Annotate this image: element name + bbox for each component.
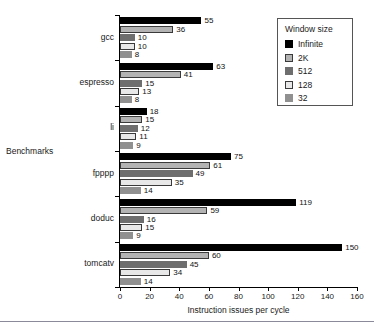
y-axis-category-label: gcc — [48, 32, 114, 42]
bar-value-label: 8 — [135, 96, 139, 104]
bar — [120, 51, 132, 58]
bar — [120, 269, 170, 276]
bar — [120, 207, 207, 214]
x-axis-tick — [357, 287, 358, 291]
legend: Window size Infinite2K51212832 — [277, 18, 353, 106]
bar — [120, 170, 193, 177]
bar-value-label: 61 — [213, 162, 222, 170]
legend-item-label: Infinite — [298, 39, 323, 49]
x-axis-tick — [239, 287, 240, 291]
legend-item-label: 128 — [298, 80, 312, 90]
bar-value-label: 45 — [190, 261, 199, 269]
bar-value-label: 9 — [136, 142, 140, 150]
x-axis-tick-label: 160 — [342, 292, 372, 302]
y-axis-label: Benchmarks — [6, 146, 76, 156]
bar — [120, 71, 181, 78]
bar-value-label: 150 — [345, 244, 358, 252]
bar-value-label: 13 — [142, 88, 151, 96]
bar — [120, 34, 135, 41]
bar — [120, 252, 209, 259]
bar — [120, 187, 141, 194]
y-axis-tick — [115, 196, 119, 197]
bar-value-label: 59 — [210, 207, 219, 215]
y-axis-tick — [115, 151, 119, 152]
bar-value-label: 63 — [216, 63, 225, 71]
y-axis-tick — [115, 287, 119, 288]
x-axis-tick — [150, 287, 151, 291]
bar-value-label: 10 — [138, 34, 147, 42]
x-axis-tick-label: 20 — [135, 292, 165, 302]
bar — [120, 26, 173, 33]
x-axis-tick — [298, 287, 299, 291]
bar-value-label: 35 — [175, 179, 184, 187]
bar-value-label: 41 — [184, 71, 193, 79]
y-axis-tick — [115, 106, 119, 107]
y-axis-category-label: espresso — [48, 77, 114, 87]
bar — [120, 125, 138, 132]
y-axis-category-label: doduc — [48, 213, 114, 223]
legend-swatch-icon — [285, 40, 293, 48]
bar — [120, 179, 172, 186]
x-axis-tick-label: 40 — [164, 292, 194, 302]
bar — [120, 278, 141, 285]
bar — [120, 199, 296, 206]
bottom-divider — [0, 321, 374, 322]
bar — [120, 142, 133, 149]
x-axis-label: Instruction issues per cycle — [119, 305, 358, 315]
bar — [120, 63, 213, 70]
bar-value-label: 36 — [176, 26, 185, 34]
bar-value-label: 75 — [234, 153, 243, 161]
legend-swatch-icon — [285, 54, 293, 62]
x-axis-tick-label: 80 — [224, 292, 254, 302]
legend-swatch-icon — [285, 94, 293, 102]
y-axis-category-label: li — [48, 122, 114, 132]
bar-value-label: 14 — [144, 278, 153, 286]
y-axis-tick — [115, 242, 119, 243]
bar-value-label: 9 — [136, 232, 140, 240]
bar — [120, 216, 144, 223]
chart-figure: 020406080100120140160gcc553610108espress… — [0, 0, 374, 331]
bar-value-label: 55 — [204, 17, 213, 25]
bar-value-label: 60 — [212, 252, 221, 260]
y-axis-tick — [115, 60, 119, 61]
x-axis-tick-label: 120 — [283, 292, 313, 302]
legend-item-label: 2K — [298, 53, 308, 63]
x-axis-tick — [120, 287, 121, 291]
bar-value-label: 119 — [299, 199, 312, 207]
x-axis-tick-label: 140 — [312, 292, 342, 302]
x-axis-tick — [268, 287, 269, 291]
bar — [120, 162, 210, 169]
y-axis-category-label: tomcatv — [48, 258, 114, 268]
bar — [120, 96, 132, 103]
bar-value-label: 14 — [144, 187, 153, 195]
x-axis-tick — [209, 287, 210, 291]
y-axis-tick — [115, 15, 119, 16]
x-axis-tick — [179, 287, 180, 291]
bar — [120, 232, 133, 239]
bar-value-label: 49 — [196, 170, 205, 178]
bar-value-label: 10 — [138, 43, 147, 51]
bar-value-label: 34 — [173, 269, 182, 277]
x-axis-tick-label: 0 — [105, 292, 135, 302]
x-axis-tick-label: 60 — [194, 292, 224, 302]
bar-value-label: 8 — [135, 51, 139, 59]
bar — [120, 116, 142, 123]
legend-title: Window size — [285, 24, 333, 34]
legend-swatch-icon — [285, 67, 293, 75]
bar — [120, 88, 139, 95]
x-axis-tick — [327, 287, 328, 291]
legend-item-label: 32 — [298, 93, 307, 103]
x-axis-tick-label: 100 — [253, 292, 283, 302]
bar — [120, 133, 136, 140]
legend-item-label: 512 — [298, 66, 312, 76]
bar-value-label: 15 — [145, 224, 154, 232]
y-axis-category-label: fpppp — [48, 168, 114, 178]
bar — [120, 17, 201, 24]
legend-swatch-icon — [285, 81, 293, 89]
bar — [120, 261, 187, 268]
bar — [120, 224, 142, 231]
bar — [120, 153, 231, 160]
bar — [120, 80, 142, 87]
bar — [120, 108, 147, 115]
bar — [120, 43, 135, 50]
